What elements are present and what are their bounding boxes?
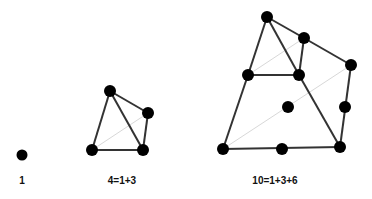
- edge: [92, 91, 110, 150]
- figure-ten: 10=1+3+6: [217, 11, 357, 186]
- node: [293, 69, 305, 81]
- node: [339, 101, 351, 113]
- node: [298, 32, 310, 44]
- figure-label: 10=1+3+6: [252, 175, 298, 186]
- triangular-numbers-diagram: 1 4=1+3 10=1: [0, 0, 372, 199]
- node: [137, 144, 149, 156]
- node: [282, 101, 294, 113]
- node: [104, 85, 116, 97]
- node: [261, 11, 273, 23]
- node: [217, 143, 229, 155]
- node: [276, 143, 288, 155]
- node: [17, 150, 28, 161]
- figure-four: 4=1+3: [86, 85, 154, 186]
- node: [334, 141, 346, 153]
- node: [345, 59, 357, 71]
- figure-one: 1: [17, 150, 28, 187]
- edge: [304, 38, 351, 65]
- node: [86, 144, 98, 156]
- node: [142, 107, 154, 119]
- figure-label: 1: [19, 175, 25, 186]
- edge: [248, 17, 267, 75]
- edge: [223, 75, 248, 149]
- node: [242, 69, 254, 81]
- figure-label: 4=1+3: [108, 175, 137, 186]
